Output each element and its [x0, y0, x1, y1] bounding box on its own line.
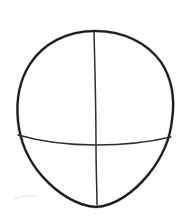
head-construction-sketch — [0, 0, 187, 224]
sketch-canvas — [0, 0, 187, 224]
